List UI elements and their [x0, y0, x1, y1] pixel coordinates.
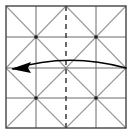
origami-diagram-figure: [0, 0, 134, 140]
crease-vertex-dot: [94, 35, 98, 39]
crease-pattern-canvas: [0, 0, 134, 140]
crease-vertex-dot: [34, 96, 38, 100]
crease-vertex-dot: [94, 96, 98, 100]
crease-vertex-dot: [34, 35, 38, 39]
